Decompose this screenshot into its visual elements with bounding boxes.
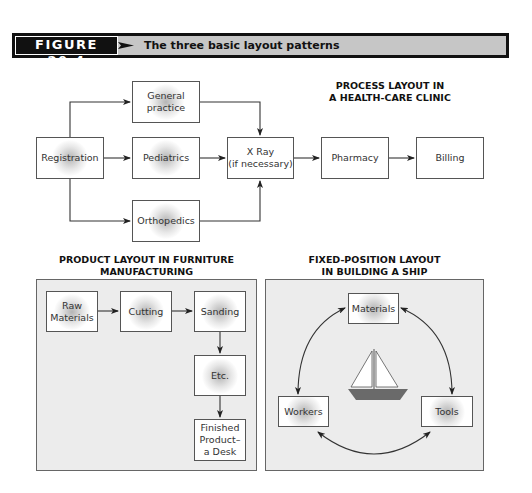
box-finished-product: FinishedProduct–a Desk: [194, 419, 246, 461]
label-line: a Desk: [204, 446, 236, 457]
box-sanding: Sanding: [194, 291, 246, 332]
box-raw-materials: RawMaterials: [46, 291, 98, 332]
box-cutting: Cutting: [120, 291, 172, 332]
box-label: Materials: [352, 303, 396, 315]
box-label: RawMaterials: [50, 300, 94, 324]
box-label: Etc.: [211, 370, 229, 382]
box-label: Tools: [435, 406, 458, 418]
box-label: FinishedProduct–a Desk: [200, 422, 241, 458]
sailboat-icon: [348, 349, 408, 400]
box-label: Sanding: [201, 306, 240, 318]
label-line: Product–: [200, 434, 241, 445]
label-line: Raw: [62, 300, 82, 311]
label-line: Materials: [50, 312, 94, 323]
box-label: Workers: [284, 406, 322, 418]
box-workers: Workers: [278, 396, 329, 427]
box-tools: Tools: [421, 396, 473, 427]
box-materials: Materials: [348, 293, 399, 324]
label-line: Finished: [201, 422, 240, 433]
box-etc: Etc.: [194, 355, 246, 396]
box-label: Cutting: [129, 306, 164, 318]
